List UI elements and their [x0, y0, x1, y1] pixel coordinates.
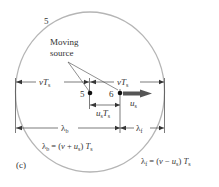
callout-label-line2: source: [50, 48, 74, 58]
callout-label-line1: Moving: [50, 37, 79, 47]
right-vts-label: vTs: [117, 77, 129, 88]
callout-line-6: [68, 62, 118, 90]
displacement-label: usTs: [96, 108, 111, 119]
lambda-b-label: λb: [61, 123, 68, 134]
lambda-f-label: λf: [136, 123, 142, 134]
wavefront-label: 5: [44, 16, 49, 26]
lambda-b-equation: λb = (v + us) Ts: [42, 141, 93, 152]
left-vts-label: vTs: [39, 77, 51, 88]
source-position-6-dot: [118, 91, 123, 96]
panel-label: (c): [16, 160, 26, 170]
callout-line-5: [68, 62, 89, 91]
lambda-f-equation: λf = (v − us) Ts: [141, 156, 191, 167]
left-arrowhead: [16, 80, 22, 84]
source-position-5-label: 5: [80, 89, 85, 99]
source-position-6-label: 6: [109, 89, 114, 99]
velocity-label: us: [130, 98, 138, 109]
source-position-5-dot: [88, 91, 93, 96]
velocity-arrow-icon: [123, 90, 152, 98]
doppler-diagram: 5 Moving source vTs vTs 5 6 us usTs λb λ…: [0, 0, 219, 187]
